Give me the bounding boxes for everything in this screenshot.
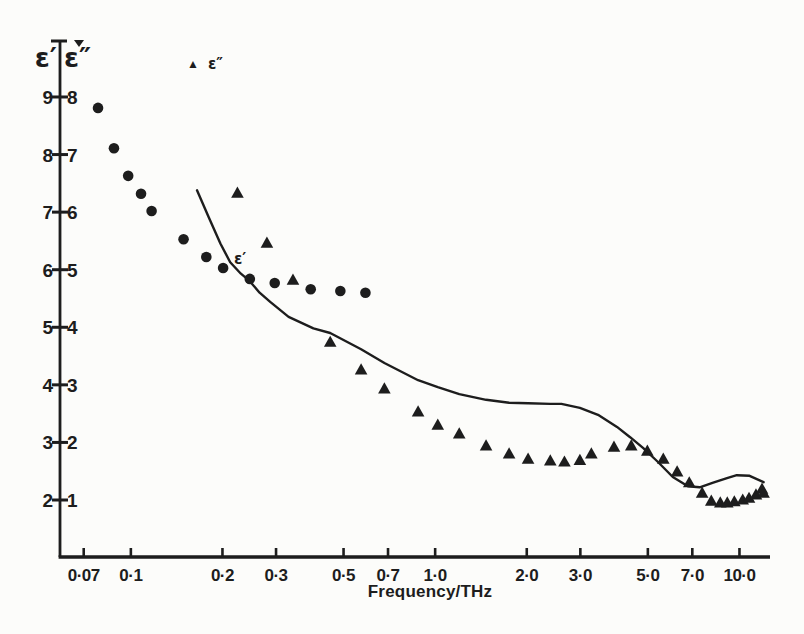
x-tick-label: 0·2 xyxy=(211,566,234,585)
y-tick-label-left: 6 xyxy=(42,260,53,281)
legend-triangle-icon: ▲ xyxy=(187,58,199,70)
dielectric-spectrum-figure: 98877665544332210·070·10·20·30·50·71·02·… xyxy=(0,0,804,634)
y-tick-label-left: 7 xyxy=(42,202,53,223)
epsilon-double-prime-point xyxy=(503,447,516,458)
curve-label: ε′ xyxy=(234,250,246,268)
epsilon-prime-point xyxy=(218,263,229,274)
epsilon-double-prime-point xyxy=(287,273,300,284)
epsilon-prime-point xyxy=(305,284,316,295)
legend: ▲ ε″ xyxy=(187,55,223,73)
epsilon-double-prime-point xyxy=(522,453,535,464)
epsilon-prime-point xyxy=(178,234,189,245)
epsilon-prime-point xyxy=(136,188,147,199)
epsilon-double-prime-point xyxy=(324,336,337,347)
y-tick-label-right: 8 xyxy=(67,87,78,108)
epsilon-double-prime-point xyxy=(671,465,684,476)
y-tick-label-right: 5 xyxy=(67,260,78,281)
epsilon-double-prime-point xyxy=(608,440,621,451)
x-tick-label: 0·3 xyxy=(265,566,288,585)
x-tick-label: 0·07 xyxy=(68,566,100,585)
y-tick-label-right: 6 xyxy=(67,202,78,223)
epsilon-double-prime-point xyxy=(453,427,466,438)
epsilon-double-prime-point xyxy=(231,187,244,198)
epsilon-double-prime-point xyxy=(378,382,391,393)
epsilon-prime-point xyxy=(146,206,157,217)
epsilon-prime-point xyxy=(269,278,280,289)
epsilon-double-prime-point xyxy=(355,363,368,374)
y-tick-label-left: 9 xyxy=(42,87,53,108)
y-tick-label-left: 3 xyxy=(42,432,53,453)
y-tick-label-right: 1 xyxy=(67,490,78,511)
x-tick-label: 5·0 xyxy=(636,566,659,585)
epsilon-prime-point xyxy=(201,252,212,263)
legend-label: ε″ xyxy=(208,55,223,73)
y-tick-label-left: 8 xyxy=(42,145,53,166)
y-tick-label-right: 7 xyxy=(67,145,78,166)
epsilon-double-prime-point xyxy=(558,455,571,466)
epsilon-double-prime-point xyxy=(261,237,274,248)
y-tick-label-left: 5 xyxy=(42,317,53,338)
x-axis-title: Frequency/THz xyxy=(340,582,520,602)
epsilon-double-prime-point xyxy=(544,454,557,465)
epsilon-prime-point xyxy=(360,287,371,298)
epsilon-double-prime-point xyxy=(641,444,654,455)
x-tick-label: 3·0 xyxy=(569,566,592,585)
epsilon-prime-curve xyxy=(197,190,764,487)
x-tick-label: 7·0 xyxy=(681,566,704,585)
epsilon-prime-point xyxy=(109,143,120,154)
epsilon-double-prime-point xyxy=(431,419,444,430)
y-tick-label-right: 3 xyxy=(67,375,78,396)
epsilon-double-prime-point xyxy=(585,447,598,458)
right-axis-title: ε″ xyxy=(64,44,91,71)
epsilon-prime-point xyxy=(93,103,104,114)
left-axis-title: ε′ xyxy=(28,44,57,71)
y-tick-label-left: 4 xyxy=(42,375,53,396)
epsilon-double-prime-point xyxy=(480,439,493,450)
epsilon-double-prime-point xyxy=(574,454,587,465)
epsilon-prime-point xyxy=(123,171,134,182)
y-tick-label-left: 2 xyxy=(42,490,53,511)
plot-canvas: 98877665544332210·070·10·20·30·50·71·02·… xyxy=(0,0,804,634)
epsilon-double-prime-point xyxy=(412,405,425,416)
x-tick-label: 0·1 xyxy=(119,566,142,585)
y-tick-label-right: 4 xyxy=(67,317,78,338)
epsilon-prime-point xyxy=(335,286,346,297)
y-tick-label-right: 2 xyxy=(67,432,78,453)
x-tick-label: 10·0 xyxy=(723,566,755,585)
